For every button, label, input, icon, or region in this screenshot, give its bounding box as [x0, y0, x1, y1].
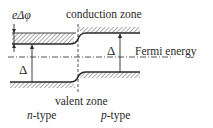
valent-zone-label: valent zone: [55, 96, 108, 108]
delta-left-label: Δ: [19, 63, 27, 76]
e-delta-phi-label: eΔφ: [12, 9, 31, 21]
n-type-label: n-type: [27, 110, 56, 122]
conduction-zone-label: conduction zone: [66, 9, 142, 21]
delta-right-label: Δ: [107, 44, 115, 57]
fermi-energy-label: Fermi energy: [135, 46, 196, 58]
p-type-label: p-type: [101, 110, 130, 122]
p-conduction-hatch: [76, 27, 140, 33]
n-valence-hatch: [10, 82, 76, 88]
n-conduction-hatch: [12, 33, 74, 44]
arrow-down-icon: [12, 29, 16, 33]
p-valence-hatch: [80, 72, 140, 78]
